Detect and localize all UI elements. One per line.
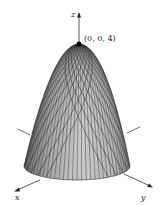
y-axis-negative — [18, 129, 30, 135]
y-axis-label: y — [140, 193, 146, 202]
y-axis — [124, 174, 150, 186]
x-axis — [17, 180, 40, 190]
z-axis-arrowhead — [77, 12, 81, 18]
paraboloid-diagram: z (0, 0, 4) x y — [0, 0, 163, 205]
z-axis-label: z — [70, 10, 76, 19]
x-axis-arrowhead — [14, 188, 20, 192]
y-axis-arrowhead — [147, 184, 153, 188]
x-axis-negative — [127, 127, 140, 133]
x-axis-label: x — [15, 193, 20, 202]
vertex-label: (0, 0, 4) — [84, 34, 116, 43]
vertex-point — [77, 42, 82, 47]
